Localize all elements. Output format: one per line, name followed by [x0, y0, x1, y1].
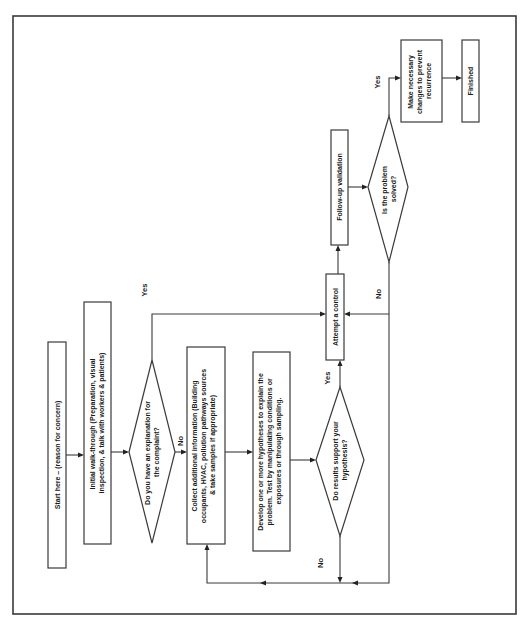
label-support-yes: Yes — [323, 372, 332, 385]
arrow-head-icon — [362, 185, 368, 190]
arrow-head-icon — [456, 76, 462, 81]
label-explanation-yes: Yes — [140, 284, 149, 297]
svg-text:Finished: Finished — [467, 67, 474, 96]
svg-text:Start here – (reason for conce: Start here – (reason for concern) — [54, 401, 62, 510]
node-changes-line: changes to prevent — [416, 49, 424, 114]
node-attempt-line: Attempt a control — [332, 288, 340, 346]
node-support-decision: Do results support your hypothesis? — [316, 387, 364, 536]
node-explanation-decision: Do you have an explanation for the compl… — [129, 360, 175, 543]
node-changes-line: recurrence — [425, 63, 432, 99]
svg-text:Attempt a control: Attempt a control — [332, 288, 340, 346]
node-develop-line: exposures or through sampling. — [275, 397, 283, 504]
label-explanation-no: No — [176, 436, 185, 446]
node-finished-line: Finished — [467, 67, 474, 96]
node-solved-line: Is the problem — [381, 166, 389, 214]
node-finished: Finished — [462, 40, 479, 122]
arrow-head-icon — [338, 360, 343, 366]
node-changes-line: Make necessary — [407, 55, 415, 109]
svg-text:Follow-up validation: Follow-up validation — [336, 153, 344, 221]
node-solved-decision: Is the problem solved? — [368, 116, 408, 262]
arrow-head-icon — [78, 453, 84, 458]
arrow-head-icon — [336, 245, 341, 251]
label-support-no: No — [316, 558, 325, 568]
edge-explanation-attempt — [152, 314, 322, 360]
node-develop: Develop one or more hypotheses to explai… — [253, 352, 290, 551]
node-start-line: Start here – (reason for concern) — [54, 401, 62, 510]
node-collect-line: occupants, HVAC, pollution pathways sour… — [200, 369, 208, 523]
label-solved-no: No — [374, 289, 383, 299]
node-explanation-line: the complaint? — [153, 427, 161, 477]
arrow-head-icon — [338, 577, 343, 583]
node-walkthrough-line: Initial walk-through (Preparation, visua… — [89, 358, 97, 489]
arrow-head-icon — [205, 544, 210, 550]
node-collect-line: Collect additional information (Building — [191, 380, 199, 511]
node-collect: Collect additional information (Building… — [187, 347, 225, 544]
arrow-head-icon — [123, 450, 129, 455]
arrow-head-icon — [260, 581, 266, 586]
label-solved-yes: Yes — [373, 76, 382, 89]
arrow-head-icon — [395, 76, 401, 81]
node-explanation-line: Do you have an explanation for — [144, 401, 152, 505]
node-support-line: Do results support your — [332, 421, 340, 501]
node-walkthrough: Initial walk-through (Preparation, visua… — [84, 302, 111, 544]
arrow-head-icon — [247, 450, 253, 455]
svg-text:Initial walk-through (Preparat: Initial walk-through (Preparation, visua… — [89, 353, 106, 494]
edge-solved-changes — [389, 78, 397, 116]
node-changes: Make necessary changes to prevent recurr… — [401, 40, 442, 122]
flowchart-canvas: Start here – (reason for concern) Initia… — [0, 0, 527, 627]
node-develop-line: Develop one or more hypotheses to explai… — [257, 373, 265, 531]
node-support-line: hypothesis? — [341, 439, 349, 480]
node-followup: Follow-up validation — [331, 130, 348, 245]
edge-loop-to-collect — [207, 262, 389, 583]
node-solved-line: solved? — [390, 176, 397, 202]
node-walkthrough-line: inspection, & talk with workers & patien… — [98, 353, 106, 494]
arrow-head-icon — [320, 312, 326, 317]
node-develop-line: problem. Test by manipulating conditions… — [266, 378, 274, 526]
arrow-head-icon — [352, 581, 358, 586]
node-start: Start here – (reason for concern) — [48, 342, 66, 568]
arrow-head-icon — [181, 450, 187, 455]
arrow-head-icon — [344, 312, 350, 317]
arrow-head-icon — [310, 458, 316, 463]
node-collect-line: & take samples if appropriate) — [209, 395, 217, 495]
node-attempt: Attempt a control — [326, 274, 344, 360]
node-followup-line: Follow-up validation — [336, 153, 344, 221]
